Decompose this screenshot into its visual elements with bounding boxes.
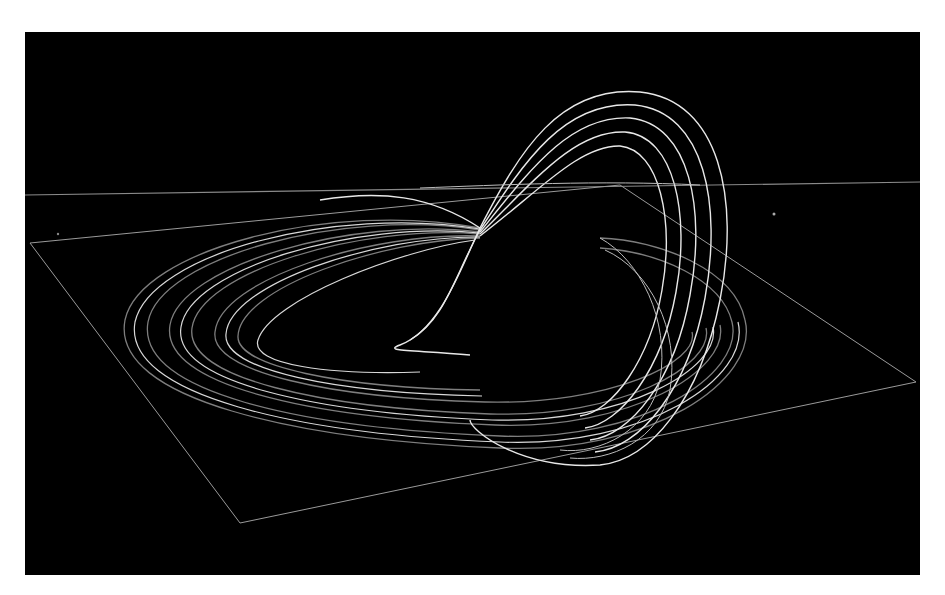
attractor-render-canvas <box>25 32 920 575</box>
horizon-line <box>25 182 920 195</box>
stray-point <box>57 233 59 235</box>
stray-point <box>773 213 776 216</box>
attractor-curves <box>124 91 746 465</box>
attractor-figure <box>25 32 920 575</box>
